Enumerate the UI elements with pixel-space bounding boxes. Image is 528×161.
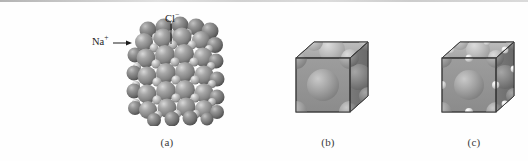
sodium-label-text: Na: [92, 36, 104, 47]
unit-cell-cube-c: [434, 30, 520, 122]
panel-c-unit-cell: [434, 30, 520, 122]
unit-cell-cube-b: [288, 30, 374, 122]
chloride-label-text: Cl: [165, 13, 175, 24]
nacl-structure-figure: Cl− Na+: [0, 0, 528, 161]
chloride-charge-text: −: [175, 10, 179, 19]
sodium-ion-label: Na+: [92, 33, 108, 47]
caption-c: (c): [454, 136, 494, 148]
chloride-ion-label: Cl−: [165, 10, 179, 24]
chloride-leader-line: [168, 24, 180, 46]
panel-b-unit-cell: [288, 30, 374, 122]
sodium-leader-arrow: [113, 37, 133, 49]
sodium-charge-text: +: [104, 33, 108, 42]
caption-b: (b): [308, 136, 348, 148]
top-scan-line: [0, 0, 528, 2]
cube-front-face-spheres: [434, 48, 506, 122]
caption-a: (a): [147, 136, 187, 148]
